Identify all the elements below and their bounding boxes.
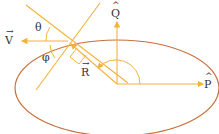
normal-line (36, 3, 100, 90)
velocity-label: →V (5, 35, 13, 46)
anomaly-arc (98, 60, 140, 84)
q-hat-label: ^Q (111, 8, 120, 19)
phi-arc (50, 45, 55, 58)
theta-arc (46, 27, 50, 41)
orbit-diagram (0, 0, 219, 134)
theta-label: θ (35, 22, 42, 33)
p-hat-label: ^P (204, 79, 211, 90)
position-label: →R (81, 67, 89, 78)
position-vector (71, 44, 117, 84)
phi-label: φ (42, 52, 50, 63)
